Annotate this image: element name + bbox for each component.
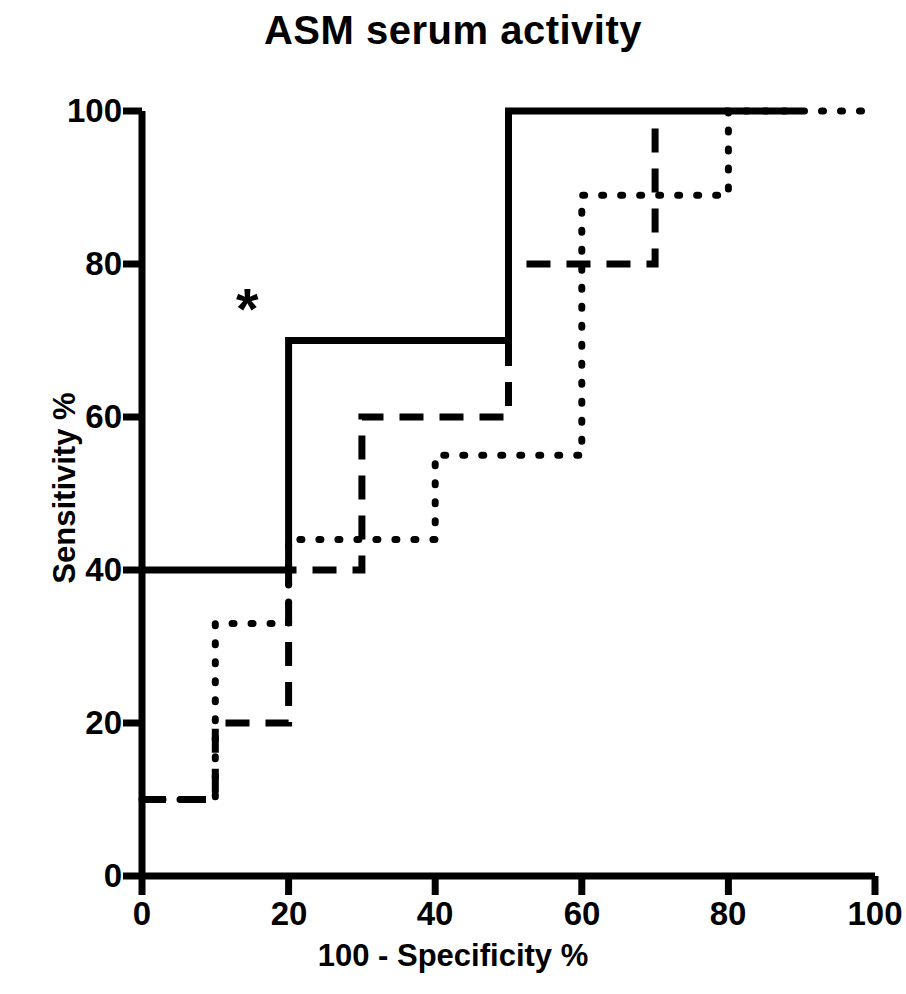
roc-chart-figure: ASM serum activity Sensitivity % 100 - S… <box>0 0 906 994</box>
solid-roc-curve <box>142 111 802 570</box>
roc-curves <box>142 111 875 800</box>
roc-plot-area <box>0 0 906 994</box>
axis-ticks <box>123 111 875 895</box>
